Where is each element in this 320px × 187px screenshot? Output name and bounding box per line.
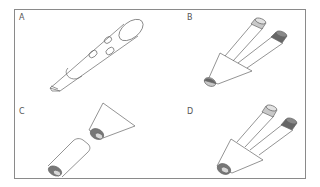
diagram-canvas xyxy=(0,0,320,187)
panel-d-mixer-illustration xyxy=(216,104,298,177)
panel-a-device-illustration xyxy=(50,15,147,91)
panel-b-mixer-illustration xyxy=(203,17,288,88)
panel-c-separated-illustration xyxy=(47,103,135,178)
